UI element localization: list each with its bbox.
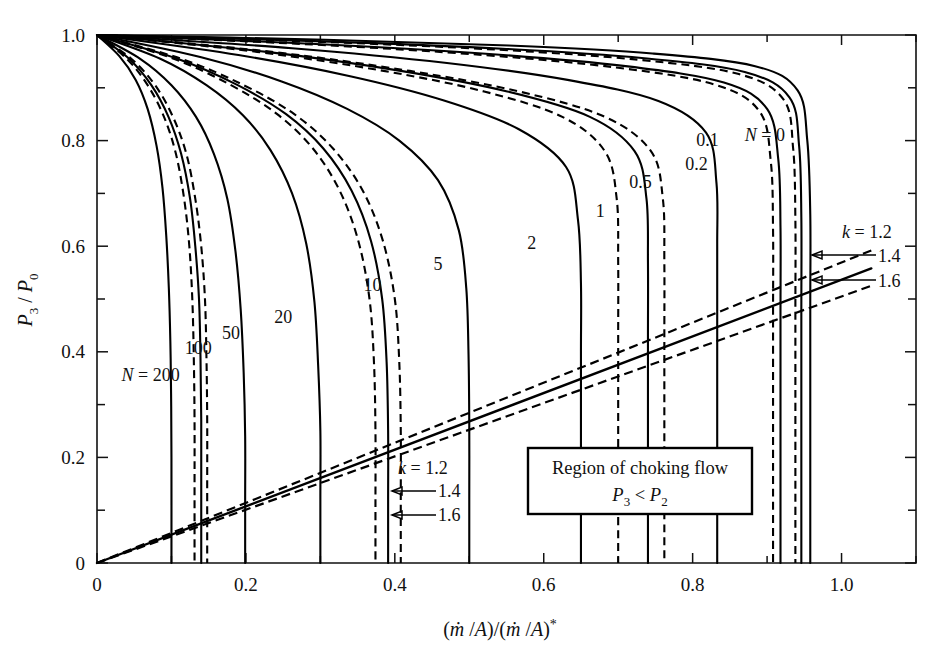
x-a1: A — [473, 618, 488, 640]
k-legend-left-row3: 1.6 — [438, 505, 461, 525]
data-curve — [97, 35, 171, 563]
x-tick-label: 0.6 — [532, 574, 556, 595]
y-tick-label: 1.0 — [61, 25, 85, 46]
x-mdot2: ṁ — [506, 618, 520, 640]
curve-labels-group: N = 2001005020105210.50.20.1N = 0 — [121, 125, 785, 385]
k-value-1: 1.2 — [869, 222, 892, 242]
y-tick-label: 0.4 — [61, 341, 85, 362]
chart-figure: 00.20.40.60.81.0 00.20.40.60.81.0 N = 20… — [0, 0, 942, 653]
y-tick-label: 0.6 — [61, 236, 85, 257]
x-axis-tick-labels: 00.20.40.60.81.0 — [92, 574, 853, 595]
curve-label: N = 200 — [121, 365, 180, 385]
choking-boundary-line — [97, 286, 871, 563]
k-legend-right-row1: k = 1.2 — [842, 222, 892, 242]
k-legend-right-row3: 1.6 — [878, 271, 901, 291]
data-curve — [97, 35, 195, 563]
k-legend-left-row1: k = 1.2 — [398, 458, 448, 478]
k-legend-left: k = 1.2 1.4 1.6 — [392, 458, 461, 525]
y-axis-tick-labels: 00.20.40.60.81.0 — [61, 25, 85, 574]
y-tick-label: 0.2 — [61, 447, 85, 468]
x-axis-title: (ṁ /A)/(ṁ /A)* — [443, 617, 557, 641]
data-curve — [97, 35, 207, 563]
x-star: * — [550, 617, 557, 632]
curve-label-symbol: N — [121, 365, 135, 385]
y-axis-title-text: P3 / P0 — [14, 274, 41, 328]
x-a2: A — [529, 618, 544, 640]
x-tick-label: 0 — [92, 574, 102, 595]
curve-label: 0.2 — [685, 154, 708, 174]
curve-label: 5 — [434, 254, 443, 274]
curve-label: N = 0 — [744, 125, 785, 145]
choking-boundary-line — [97, 268, 871, 563]
data-curve — [97, 35, 469, 563]
k-equals: = — [855, 222, 870, 242]
y-sub0: 0 — [26, 274, 41, 281]
curve-label-rest: = 0 — [757, 125, 785, 145]
x-slash-a1: / — [464, 618, 475, 640]
curve-label: 50 — [222, 323, 240, 343]
y-slash: / — [14, 292, 36, 308]
choking-boundary-lines — [97, 250, 871, 563]
x-mdot1: ṁ — [450, 618, 464, 640]
x-tick-label: 0.8 — [681, 574, 705, 595]
k-legend-right-row2: 1.4 — [878, 246, 901, 266]
curve-label: 20 — [274, 307, 292, 327]
annot-lt: < — [630, 485, 650, 505]
x-axis-title-text: (ṁ /A)/(ṁ /A)* — [443, 617, 557, 641]
curve-label: 2 — [527, 233, 536, 253]
y-axis-title: P3 / P0 — [14, 274, 41, 328]
choking-region-annotation: Region of choking flow P3 < P2 — [528, 448, 752, 514]
data-curve — [97, 35, 376, 563]
k-legend-left-row2: 1.4 — [438, 481, 461, 501]
y-p0: P — [14, 280, 36, 293]
x-tick-label: 0.2 — [234, 574, 258, 595]
x-tick-label: 0.4 — [383, 574, 407, 595]
k-equals-left: = — [411, 458, 426, 478]
y-tick-label: 0 — [76, 553, 86, 574]
x-tick-label: 1.0 — [830, 574, 854, 595]
curve-label: 0.5 — [629, 172, 652, 192]
curve-label: 10 — [364, 275, 382, 295]
y-p: P — [14, 314, 36, 327]
curve-label: 0.1 — [696, 130, 719, 150]
y-tick-label: 0.8 — [61, 130, 85, 151]
k-value-left-1: 1.2 — [425, 458, 448, 478]
curve-label-symbol: N — [744, 125, 758, 145]
compressible-flow-chart: 00.20.40.60.81.0 00.20.40.60.81.0 N = 20… — [0, 0, 942, 653]
annotation-line-1: Region of choking flow — [552, 458, 729, 478]
curve-label: 100 — [185, 338, 212, 358]
curve-label: 1 — [596, 201, 605, 221]
x-slash-a2: / — [520, 618, 531, 640]
choking-boundary-line — [97, 250, 871, 563]
annot-p3: P — [611, 485, 623, 505]
annot-p2: P — [649, 485, 661, 505]
x-close2: ) — [543, 618, 550, 641]
curve-label-rest: = 200 — [134, 365, 180, 385]
annot-sub2: 2 — [661, 494, 668, 509]
x-close1: )/( — [487, 618, 506, 641]
